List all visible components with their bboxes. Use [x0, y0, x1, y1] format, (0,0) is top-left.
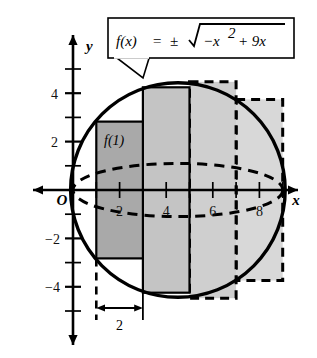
x-tick-label-8: 8 — [256, 204, 263, 219]
y-tick-label-neg2: −2 — [45, 232, 60, 247]
function-circle-diagram: 2 4 6 8 4 2 −2 −4 y x O f(1) 2 f(x) = ± … — [0, 0, 317, 358]
y-tick-label-4: 4 — [51, 87, 58, 102]
y-axis-name: y — [84, 38, 93, 54]
x-tick-label-6: 6 — [209, 204, 216, 219]
x-tick-label-4: 4 — [163, 204, 170, 219]
formula-radicand-exponent: 2 — [228, 25, 236, 41]
x-axis-name: x — [291, 192, 300, 208]
y-tick-label-neg4: −4 — [45, 280, 60, 295]
y-tick-label-2: 2 — [51, 135, 58, 150]
math-figure-container: 2 4 6 8 4 2 −2 −4 y x O f(1) 2 f(x) = ± … — [0, 0, 317, 358]
origin-label: O — [57, 192, 68, 208]
width-dimension-label: 2 — [116, 318, 123, 333]
formula-radicand-a: −x — [203, 33, 220, 49]
formula-equals: = — [152, 33, 162, 49]
x-tick-label-2: 2 — [116, 204, 123, 219]
formula-radicand-b: + 9x — [238, 33, 266, 49]
rect-height-label: f(1) — [104, 133, 125, 149]
formula-plusminus: ± — [170, 33, 178, 49]
formula-lhs: f(x) — [116, 33, 137, 50]
